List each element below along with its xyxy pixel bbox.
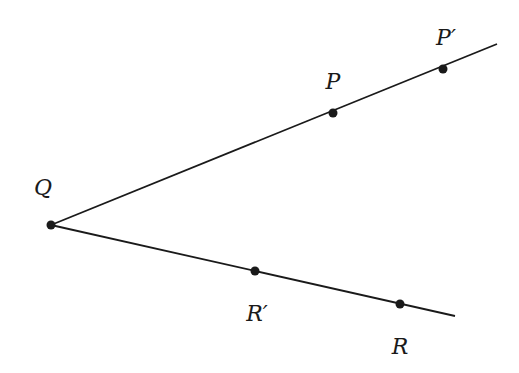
point-P-prime [439, 65, 448, 74]
label-R: R [391, 334, 409, 359]
label-Q: Q [34, 175, 52, 200]
point-R [396, 300, 405, 309]
point-Q [47, 221, 56, 230]
label-R-prime: R′ [245, 301, 268, 326]
point-R-prime [251, 267, 260, 276]
label-P: P [325, 69, 342, 94]
geometry-diagram: QPP′R′R [0, 0, 519, 373]
label-P-prime: P′ [435, 25, 456, 50]
ray-QP [51, 44, 497, 225]
diagram-canvas: QPP′R′R [0, 0, 519, 373]
point-P [329, 109, 338, 118]
